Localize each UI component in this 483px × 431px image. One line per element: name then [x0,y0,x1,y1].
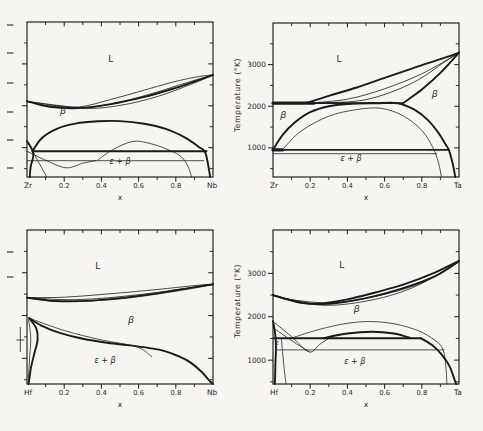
panel-zr-nb-x-tick-label: 0.6 [133,182,144,190]
panel-zr-ta-y-tick-label: 3000 [247,60,266,69]
panel-hf-nb-x-tick-label: 0.8 [170,389,181,397]
panel-zr-ta-right-end-label: Ta [453,181,462,190]
panel-zr-nb-curve-corner-diagonal [28,143,46,177]
panel-hf-ta-frame [273,230,459,384]
panel-hf-ta-curve-dome [323,332,410,339]
panel-hf-ta-y-tick-label: 1000 [247,356,266,365]
panel-hf-ta-y-tick-label: 2000 [247,312,266,321]
panel-zr-nb-right-end-label: Nb [207,181,218,190]
panel-zr-ta-x-axis-label: x [364,193,369,202]
panel-zr-ta-y-tick-label: 2000 [247,102,266,111]
phase-diagram-figure-svg: 0.20.40.60.8ZrNbxLβε + β0.20.40.60.81000… [0,0,483,431]
panel-zr-ta-x-tick-label: 0.2 [305,182,316,190]
panel-hf-ta-x-axis-label: x [364,400,369,409]
panel-hf-ta-x-tick-label: 0.4 [342,389,353,397]
panel-hf-ta-region-label: ε [275,339,279,347]
panel-zr-nb-x-tick-label: 0.2 [59,182,70,190]
panel-zr-nb-x-tick-label: 0.8 [170,182,181,190]
panel-zr-ta-y-tick-label: 1000 [247,143,266,152]
panel-zr-ta-curve-miscibility-gap [273,103,455,177]
panel-zr-ta-curve-calc-gap [282,108,441,176]
panel-zr-nb-x-tick-label: 0.4 [96,182,107,190]
panel-hf-nb-region-label: ε + β [95,356,116,365]
panel-zr-nb-curve-miscibility-gap [33,121,211,177]
panel-hf-ta-right-end-label: Ta [453,388,462,397]
panel-zr-nb-frame [27,22,213,177]
panel-hf-nb-frame [27,230,213,384]
temperature-axis-label-bottom: Temperature (°K) [233,264,242,338]
panel-zr-nb-region-label: L [108,54,113,64]
phase-diagram-figure: 0.20.40.60.8ZrNbxLβε + β0.20.40.60.81000… [0,0,483,431]
panel-hf-ta-region-label: L [339,260,344,270]
panel-hf-nb-x-tick-label: 0.2 [59,389,70,397]
panel-zr-nb-region-label: ε + β [109,157,130,166]
panel-hf-ta-region-label: ε + β [344,357,365,366]
panel-zr-ta-x-tick-label: 0.8 [416,182,427,190]
panel-zr-ta-region-label: β [431,88,438,99]
panel-hf-ta-y-tick-label: 3000 [247,269,266,278]
panel-zr-ta-x-tick-label: 0.4 [342,182,353,190]
panel-hf-ta-x-tick-label: 0.8 [416,389,427,397]
panel-zr-ta-region-label: β [279,109,286,120]
panel-hf-nb-region-label: β [127,314,134,325]
panel-hf-nb-x-tick-label: 0.6 [133,389,144,397]
panel-hf-ta-x-tick-label: 0.6 [379,389,390,397]
panel-zr-ta-x-tick-label: 0.6 [379,182,390,190]
panel-zr-nb-left-end-label: Zr [24,181,33,190]
panel-zr-nb-curve-calc-solidus [27,75,213,108]
panel-hf-ta-left-end-label: Hf [270,388,279,397]
panel-hf-ta-x-tick-label: 0.2 [305,389,316,397]
panel-hf-nb-region-label: L [95,261,100,271]
panel-hf-ta-curve-eutectoid-v [273,321,329,352]
panel-zr-ta-region-label: L [337,54,342,64]
panel-hf-nb-curve-liquidus [27,284,213,297]
temperature-axis-label-top: Temperature (°K) [233,58,242,132]
panel-hf-ta-region-label: β [353,303,360,314]
panel-hf-nb-right-end-label: Nb [207,388,218,397]
panel-zr-ta-left-end-label: Zr [270,181,279,190]
panel-hf-ta-curve-right-flank [421,338,456,384]
panel-zr-nb-curve-solidus [27,75,213,108]
panel-hf-nb-x-axis-label: x [118,400,123,409]
panel-hf-nb-left-end-label: Hf [24,388,33,397]
panel-zr-ta-region-label: ε + β [341,154,362,163]
panel-hf-nb-x-tick-label: 0.4 [96,389,107,397]
panel-hf-ta-curve-solidus [273,261,459,304]
panel-zr-nb-x-axis-label: x [118,193,123,202]
panel-zr-nb-region-label: β [59,105,66,116]
panel-hf-ta-curve-epsilon-boundary [281,338,286,384]
